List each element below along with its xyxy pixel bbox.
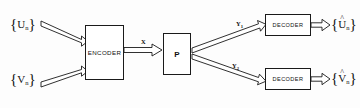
subscript-n: n xyxy=(25,24,28,31)
arrow-decoder-top-to-output xyxy=(311,19,330,30)
arrow-decoder-bottom-to-output xyxy=(311,73,330,84)
brace-close: } xyxy=(349,16,356,32)
subscript-n: n xyxy=(346,78,349,85)
node-decoder-top[interactable]: DECODER xyxy=(265,14,311,36)
label-input-u: {Un} xyxy=(10,17,36,32)
arrow-v-to-encoder xyxy=(41,66,88,87)
edge-subscript-1: 1 xyxy=(241,24,243,29)
label-input-v: {Vn} xyxy=(10,72,36,87)
brace-open: { xyxy=(331,70,338,86)
brace-open: { xyxy=(331,16,338,32)
arrow-encoder-to-channel xyxy=(124,44,162,56)
node-channel-p[interactable]: P xyxy=(163,33,191,75)
edge-label-y1: Y1 xyxy=(236,20,243,29)
u-hat-group: ^U xyxy=(338,19,346,30)
hat-accent-icon: ^ xyxy=(340,69,344,77)
symbol-v: V xyxy=(17,73,25,85)
edge-subscript-2: 2 xyxy=(237,66,239,71)
hat-accent-icon: ^ xyxy=(340,15,344,23)
edge-label-x: X xyxy=(141,38,146,45)
v-hat-group: ^V xyxy=(338,73,346,84)
block-diagram: ENCODER P DECODER DECODER {Un} {Vn} {^Un… xyxy=(0,0,360,108)
subscript-n: n xyxy=(25,79,28,86)
brace-close: } xyxy=(349,70,356,86)
node-encoder[interactable]: ENCODER xyxy=(85,25,124,80)
label-output-v-hat: {^Vn} xyxy=(331,71,357,86)
edge-label-y2: Y2 xyxy=(232,62,239,71)
label-output-u-hat: {^Un} xyxy=(331,17,357,32)
arrow-u-to-encoder xyxy=(41,21,88,46)
brace-close: } xyxy=(28,16,35,32)
arrow-channel-to-decoder-top xyxy=(192,21,266,54)
symbol-u: U xyxy=(17,18,25,30)
node-decoder-bottom[interactable]: DECODER xyxy=(265,68,311,90)
edge-symbol-x: X xyxy=(141,38,146,45)
brace-close: } xyxy=(28,71,35,87)
arrow-channel-to-decoder-bottom xyxy=(192,54,266,85)
subscript-n: n xyxy=(346,24,349,31)
